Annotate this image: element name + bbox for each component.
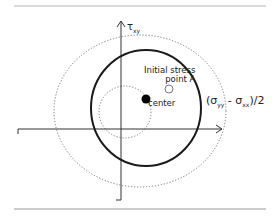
- inner-dotted-circle: [99, 86, 151, 138]
- initial-stress-line2: point A: [144, 75, 195, 84]
- initial-stress-point: [165, 85, 173, 93]
- tau-axis-label: τxy: [127, 21, 140, 34]
- initial-stress-label: Initial stress point A: [144, 66, 195, 84]
- radius-formula-label: (σyy - σxx)/2: [206, 94, 264, 108]
- center-label: center: [148, 98, 175, 108]
